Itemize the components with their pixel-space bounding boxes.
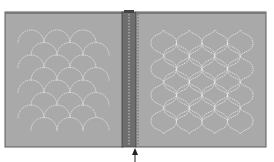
diagram-canvas — [0, 0, 274, 162]
spine-seam — [122, 10, 136, 147]
right-fabric-panel — [136, 12, 266, 147]
arrow-up-icon — [132, 148, 138, 162]
left-fabric-panel — [5, 12, 123, 147]
